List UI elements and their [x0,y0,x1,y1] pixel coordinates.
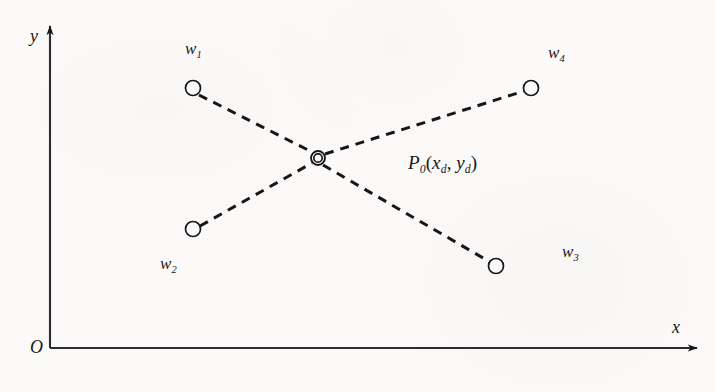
node-label-base-w4: w [548,43,559,62]
coord-y-subscript: d [465,163,471,176]
connector-w2-to-p0 [200,163,312,226]
node-label-w2: w2 [160,255,177,272]
coord-y-base: y [456,152,464,173]
y-axis-label: y [30,27,38,45]
coord-close-paren: ) [471,152,477,173]
node-markers [186,81,539,274]
connector-lines [199,91,524,262]
coord-separator: , [447,152,452,173]
node-label-subscript-w2: 2 [171,264,176,275]
center-inner-circle [314,154,322,162]
connector-w1-to-p0 [199,95,312,152]
coord-x-base: x [432,152,440,173]
node-label-w4: w4 [548,44,565,61]
diagram-svg [0,0,715,392]
node-circle-w1 [186,81,201,96]
coord-x-subscript: d [441,163,447,176]
node-label-base-w1: w [185,39,196,58]
connector-p0-to-w3 [323,165,490,262]
connector-p0-to-w4 [325,91,524,154]
figure-canvas: y x O w1w2w3w4 P0(xd, yd) [0,0,715,392]
node-circle-w3 [489,259,504,274]
point-label-subscript: 0 [420,163,426,176]
node-label-w1: w1 [185,40,202,57]
origin-label: O [30,338,43,356]
node-label-subscript-w1: 1 [196,49,201,60]
node-label-base-w3: w [562,242,573,261]
node-label-base-w2: w [160,254,171,273]
x-axis-label: x [672,318,680,336]
center-point-marker [311,151,325,165]
node-circle-w4 [524,81,539,96]
center-point-label: P0(xd, yd) [408,153,477,172]
node-circle-w2 [186,222,201,237]
point-label-base: P [408,152,420,173]
node-label-w3: w3 [562,243,579,260]
node-label-subscript-w4: 4 [559,53,564,64]
node-label-subscript-w3: 3 [573,252,578,263]
